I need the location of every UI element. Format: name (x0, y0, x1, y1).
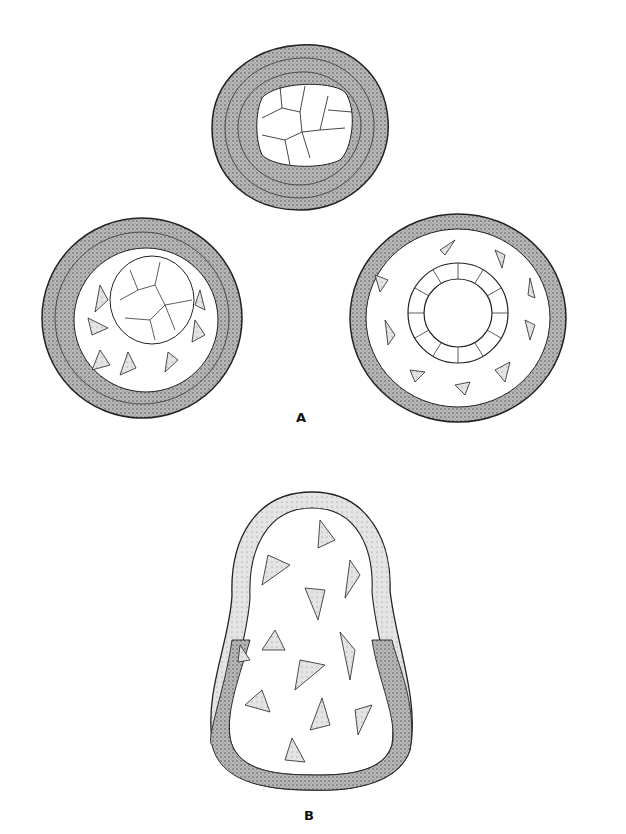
panel-a-left-stage (42, 218, 242, 418)
panel-a-right-stage (350, 214, 566, 422)
panel-label-b: B (304, 808, 314, 823)
panel-a-solid-mass (212, 45, 388, 210)
panel-label-a: A (296, 410, 306, 425)
figure-canvas (0, 0, 626, 834)
panel-b-vesicle (211, 492, 413, 790)
